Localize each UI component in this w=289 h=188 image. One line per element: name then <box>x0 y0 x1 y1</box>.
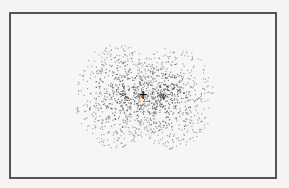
nucleus-plus-sign: + <box>138 89 148 101</box>
